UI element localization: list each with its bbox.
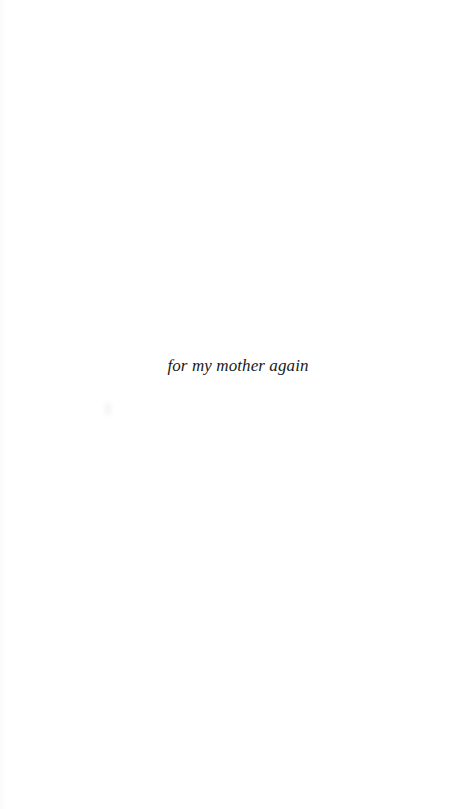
scan-smudge — [104, 402, 112, 416]
dedication-text: for my mother again — [0, 356, 476, 376]
book-page: for my mother again — [0, 0, 476, 809]
